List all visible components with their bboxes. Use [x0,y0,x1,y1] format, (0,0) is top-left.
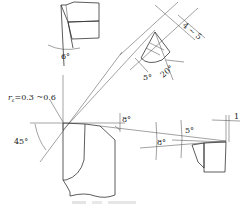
rake-side-8-label: 8° [157,138,166,147]
section-clearance-5-label: 5° [143,73,152,82]
nose-radius-label: rε=0.3 ~0.6 [8,93,56,103]
diagonal-section-line [63,30,155,130]
tool-geometry-drawing: 6° 4 ~ 5 20° 5° rε=0.3 ~0.6 45° [0,0,246,209]
right-side-view: 8° 5° 1 [100,112,240,172]
main-tool-body [63,123,120,197]
section-width-label: 4 ~ 5 [181,21,204,42]
nose-radius-leader [50,100,63,122]
clearance-side-5-label: 5° [185,126,194,135]
approach-angle-arc [35,124,46,150]
figure-caption [72,201,136,204]
rake-main-8-label: 8° [122,115,131,124]
section-angle-20-label: 20° [159,64,176,80]
drawing-canvas: 6° 4 ~ 5 20° 5° rε=0.3 ~0.6 45° [0,0,246,209]
land-width-1-label: 1 [234,112,239,121]
section-view: 4 ~ 5 20° 5° [120,2,205,82]
approach-angle-label: 45° [14,137,28,146]
diagonal-reference-line [40,52,122,162]
clearance-6-label: 6° [61,52,70,61]
top-detail-view: 6° [48,2,99,66]
